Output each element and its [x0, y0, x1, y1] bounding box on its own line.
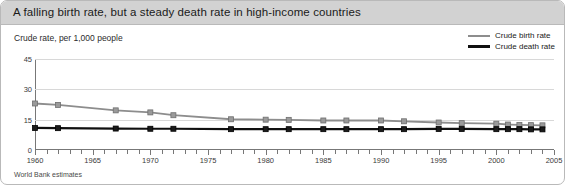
data-point-marker: [33, 125, 38, 130]
x-axis-minor-tick: [81, 150, 82, 154]
data-point-marker: [528, 127, 533, 132]
source-note: World Bank estimates: [14, 171, 82, 178]
x-axis-minor-tick: [185, 150, 186, 154]
x-axis-minor-tick: [47, 150, 48, 154]
data-point-marker: [505, 127, 510, 132]
x-axis-minor-tick: [335, 150, 336, 154]
data-point-marker: [286, 117, 291, 122]
x-axis-minor-tick: [508, 150, 509, 154]
x-axis-minor-tick: [416, 150, 417, 154]
x-axis-minor-tick: [519, 150, 520, 154]
data-point-marker: [148, 126, 153, 131]
data-point-marker: [263, 117, 268, 122]
x-axis-minor-tick: [139, 150, 140, 154]
x-axis-minor-tick: [162, 150, 163, 154]
x-axis-major-tick: [93, 150, 94, 155]
data-point-marker: [113, 108, 118, 113]
legend-label-birth: Crude birth rate: [495, 30, 551, 41]
data-point-marker: [436, 126, 441, 131]
chart-legend: Crude birth rate Crude death rate: [468, 30, 555, 52]
x-axis-minor-tick: [231, 150, 232, 154]
data-point-marker: [540, 127, 545, 132]
series-death-rate: [33, 125, 545, 131]
x-axis-minor-tick: [116, 150, 117, 154]
data-point-marker: [402, 119, 407, 124]
x-axis-minor-tick: [346, 150, 347, 154]
y-axis-tick-label: 30: [24, 85, 32, 94]
plot-area: 0153045 19601965197019751980198519901995…: [35, 59, 554, 150]
x-axis-major-tick: [208, 150, 209, 155]
chart-figure: A falling birth rate, but a steady death…: [0, 0, 565, 185]
data-point-marker: [263, 127, 268, 132]
x-axis-minor-tick: [450, 150, 451, 154]
x-axis-minor-tick: [462, 150, 463, 154]
x-axis-major-tick: [381, 150, 382, 155]
x-axis-minor-tick: [485, 150, 486, 154]
y-axis-tick-label: 0: [28, 146, 32, 155]
data-point-marker: [494, 127, 499, 132]
y-axis-tick-label: 15: [24, 115, 32, 124]
legend-swatch-death-icon: [468, 45, 490, 48]
x-axis-minor-tick: [277, 150, 278, 154]
x-axis-tick-label: 1965: [84, 156, 101, 165]
x-axis-minor-tick: [127, 150, 128, 154]
x-axis-minor-tick: [58, 150, 59, 154]
data-point-marker: [56, 126, 61, 131]
x-axis-tick-label: 1995: [430, 156, 447, 165]
x-axis-minor-tick: [427, 150, 428, 154]
x-axis-minor-tick: [300, 150, 301, 154]
data-point-marker: [56, 102, 61, 107]
x-axis-tick-label: 1985: [315, 156, 332, 165]
x-axis-major-tick: [323, 150, 324, 155]
x-axis-tick-label: 1970: [142, 156, 159, 165]
x-axis-minor-tick: [104, 150, 105, 154]
data-point-marker: [33, 101, 38, 106]
series-birth-rate: [33, 101, 545, 128]
x-axis-minor-tick: [243, 150, 244, 154]
x-axis-minor-tick: [220, 150, 221, 154]
x-axis-minor-tick: [404, 150, 405, 154]
x-axis-tick-label: 1960: [27, 156, 44, 165]
data-point-marker: [402, 127, 407, 132]
x-axis-tick-label: 1980: [257, 156, 274, 165]
data-point-marker: [379, 118, 384, 123]
data-point-marker: [286, 127, 291, 132]
page-title: A falling birth rate, but a steady death…: [13, 6, 361, 18]
x-axis-minor-tick: [254, 150, 255, 154]
data-point-marker: [321, 118, 326, 123]
legend-swatch-birth-icon: [468, 35, 490, 37]
data-point-marker: [344, 118, 349, 123]
legend-item-death: Crude death rate: [468, 41, 555, 52]
x-axis-major-tick: [554, 150, 555, 155]
data-point-marker: [171, 126, 176, 131]
x-axis-minor-tick: [173, 150, 174, 154]
data-point-marker: [436, 120, 441, 125]
data-point-marker: [459, 121, 464, 126]
series-layer: [35, 59, 554, 150]
x-axis-minor-tick: [289, 150, 290, 154]
x-axis-tick-label: 1990: [373, 156, 390, 165]
x-axis-minor-tick: [542, 150, 543, 154]
y-axis-title: Crude rate, per 1,000 people: [14, 33, 123, 43]
x-axis-minor-tick: [312, 150, 313, 154]
x-axis-minor-tick: [393, 150, 394, 154]
x-axis-major-tick: [150, 150, 151, 155]
data-point-marker: [459, 126, 464, 131]
data-point-marker: [321, 127, 326, 132]
data-point-marker: [229, 117, 234, 122]
data-point-marker: [148, 110, 153, 115]
data-point-marker: [517, 127, 522, 132]
x-axis-tick-label: 1975: [200, 156, 217, 165]
x-axis-major-tick: [266, 150, 267, 155]
data-point-marker: [344, 127, 349, 132]
x-axis-minor-tick: [531, 150, 532, 154]
x-axis-major-tick: [35, 150, 36, 155]
x-axis-minor-tick: [358, 150, 359, 154]
y-axis-tick-label: 45: [24, 55, 32, 64]
data-point-marker: [229, 127, 234, 132]
legend-item-birth: Crude birth rate: [468, 30, 555, 41]
x-axis-major-tick: [439, 150, 440, 155]
x-axis-tick-label: 2000: [488, 156, 505, 165]
x-axis-minor-tick: [196, 150, 197, 154]
data-point-marker: [379, 127, 384, 132]
